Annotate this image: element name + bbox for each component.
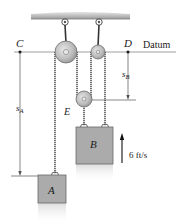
label-block-a: A bbox=[47, 184, 55, 196]
pulley-e bbox=[76, 91, 92, 107]
ceiling-anchor-right bbox=[96, 19, 102, 25]
pulley-fixed-small bbox=[91, 45, 105, 59]
label-velocity: 6 ft/s bbox=[129, 150, 148, 160]
hanger-right bbox=[98, 25, 99, 46]
block-a-hook bbox=[52, 172, 59, 175]
pulley-fixed-large bbox=[55, 41, 77, 63]
ceiling-support bbox=[31, 12, 130, 19]
label-datum: Datum bbox=[143, 39, 170, 50]
label-s-b: sB bbox=[122, 69, 130, 80]
label-e: E bbox=[63, 106, 70, 117]
label-d: D bbox=[123, 37, 132, 49]
label-c: C bbox=[16, 37, 24, 49]
pulley-diagram: C D Datum sB sA E B A 6 ft/s bbox=[0, 0, 183, 224]
ceiling-anchor-left bbox=[62, 19, 68, 25]
block-a-motion-blur bbox=[38, 203, 66, 224]
hanger-left bbox=[65, 25, 66, 43]
block-b-hooks bbox=[81, 124, 109, 127]
velocity-arrow-icon bbox=[120, 133, 124, 163]
block-b-motion-blur bbox=[76, 164, 113, 182]
label-block-b: B bbox=[90, 138, 97, 150]
dimension-s-a bbox=[11, 52, 38, 176]
